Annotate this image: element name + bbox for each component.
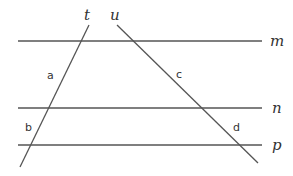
label-p: p [272,136,282,154]
parallel-lines-diagram: t u m n p a b c d [0,0,293,176]
segment-label-b: b [25,121,32,134]
label-n: n [272,99,282,117]
label-t: t [84,6,91,24]
label-u: u [110,6,120,24]
segment-label-c: c [176,68,182,81]
segment-label-d: d [233,121,240,134]
transversal-u [117,25,258,163]
segment-label-a: a [47,69,54,82]
label-m: m [270,32,284,50]
transversal-t [20,25,89,167]
